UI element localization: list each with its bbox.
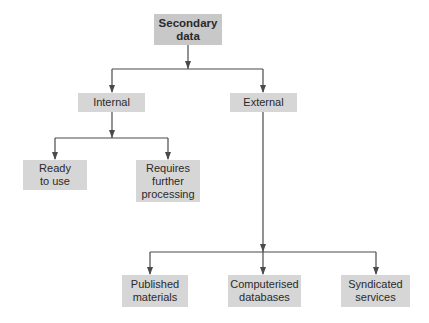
node-label: Internal xyxy=(93,96,130,109)
node-label: Secondary data xyxy=(159,17,218,43)
arrowhead xyxy=(260,267,266,275)
node-ready-to-use: Ready to use xyxy=(23,160,87,190)
node-external: External xyxy=(230,93,297,112)
arrowhead xyxy=(109,85,115,93)
node-internal: Internal xyxy=(78,93,145,112)
node-label: External xyxy=(243,96,283,109)
node-published-materials: Published materials xyxy=(122,275,188,307)
node-label: Published materials xyxy=(131,278,179,304)
arrowhead xyxy=(147,267,153,275)
arrowhead xyxy=(52,152,58,160)
arrowhead xyxy=(260,85,266,93)
node-label: Ready to use xyxy=(39,162,71,188)
arrowhead xyxy=(185,61,191,69)
node-computerised-databases: Computerised databases xyxy=(228,275,301,307)
arrowhead xyxy=(373,267,379,275)
node-secondary-data: Secondary data xyxy=(154,14,222,45)
arrowhead xyxy=(109,130,115,138)
node-label: Syndicated services xyxy=(348,278,402,304)
node-label: Requires further processing xyxy=(141,162,194,201)
node-syndicated-services: Syndicated services xyxy=(341,275,410,307)
arrowhead xyxy=(165,152,171,160)
node-label: Computerised databases xyxy=(230,278,298,304)
node-requires-further-processing: Requires further processing xyxy=(136,160,200,202)
arrowhead xyxy=(260,244,266,252)
